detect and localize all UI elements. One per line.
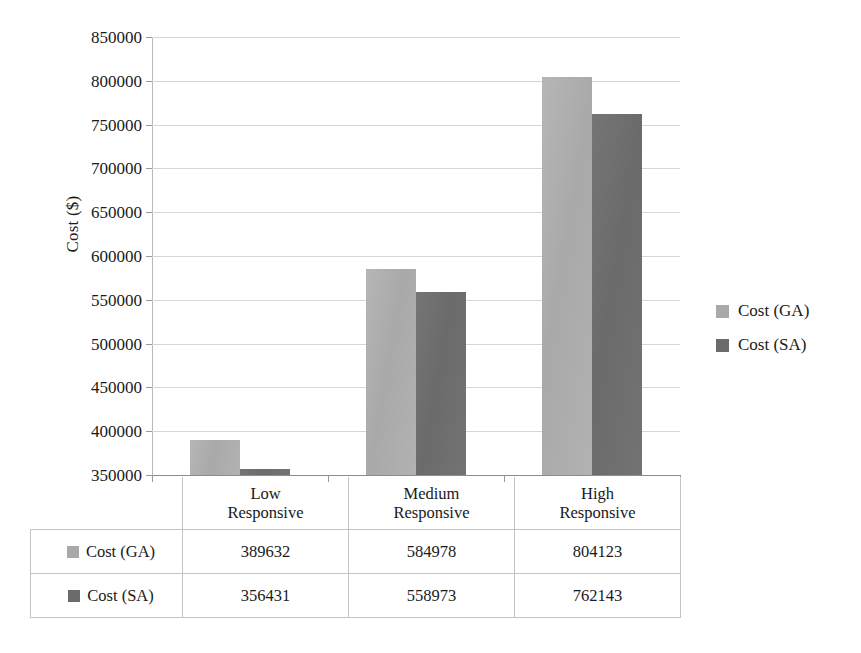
y-axis-tick (146, 212, 152, 213)
y-axis-tick-label: 600000 (42, 248, 142, 265)
table-column-header-line: Low (183, 484, 348, 503)
table-corner-cell (31, 477, 183, 530)
y-axis-tick-label: 850000 (42, 29, 142, 46)
y-axis-tick (146, 300, 152, 301)
bar-ga-1 (366, 269, 416, 475)
table-column-header-line: Responsive (349, 503, 514, 522)
bar-chart-figure: Cost ($) 8500008000007500007000006500006… (0, 0, 861, 653)
table-row: Cost (SA)356431558973762143 (31, 574, 681, 618)
gridline (152, 81, 680, 82)
table-column-header: MediumResponsive (349, 477, 515, 530)
table-column-header: HighResponsive (515, 477, 681, 530)
plot-area (152, 37, 680, 475)
y-axis-tick-label: 500000 (42, 335, 142, 352)
legend-entry: Cost (SA) (716, 328, 809, 362)
legend-label: Cost (GA) (738, 301, 809, 321)
legend-label: Cost (SA) (738, 335, 806, 355)
gridline (152, 475, 680, 476)
table-value-cell: 389632 (183, 530, 349, 574)
legend-color-swatch-icon (716, 305, 729, 318)
table-column-header-line: High (515, 484, 680, 503)
y-axis-tick (146, 37, 152, 38)
table-header-row: LowResponsiveMediumResponsiveHighRespons… (31, 477, 681, 530)
table-series-label-cell: Cost (SA) (31, 574, 183, 618)
series-color-swatch-icon (68, 590, 80, 602)
y-axis-tick (146, 125, 152, 126)
data-table: LowResponsiveMediumResponsiveHighRespons… (30, 477, 681, 618)
bar-ga-2 (542, 77, 592, 475)
legend-entry: Cost (GA) (716, 294, 809, 328)
y-axis-tick-label: 700000 (42, 160, 142, 177)
table-value-cell: 584978 (349, 530, 515, 574)
y-axis-tick-label: 450000 (42, 379, 142, 396)
table-column-header-line: Responsive (183, 503, 348, 522)
bar-ga-0 (190, 440, 240, 475)
table-column-header-line: Medium (349, 484, 514, 503)
y-axis-tick-label: 650000 (42, 204, 142, 221)
y-axis-tick (146, 431, 152, 432)
table-value-cell: 762143 (515, 574, 681, 618)
y-axis-tick-labels: 8500008000007500007000006500006000005500… (42, 37, 142, 475)
y-axis-tick-label: 800000 (42, 72, 142, 89)
table-column-header: LowResponsive (183, 477, 349, 530)
table-column-header-line: Responsive (515, 503, 680, 522)
bar-sa-0 (240, 469, 290, 475)
y-axis-tick-label: 400000 (42, 423, 142, 440)
table-series-label: Cost (SA) (87, 586, 153, 605)
table-series-label: Cost (GA) (86, 542, 155, 561)
table-row: Cost (GA)389632584978804123 (31, 530, 681, 574)
series-color-swatch-icon (67, 546, 79, 558)
y-axis-tick-label: 550000 (42, 291, 142, 308)
y-axis-tick-label: 750000 (42, 116, 142, 133)
table-value-cell: 356431 (183, 574, 349, 618)
y-axis-tick (146, 387, 152, 388)
y-axis-tick (146, 344, 152, 345)
table-series-label-cell: Cost (GA) (31, 530, 183, 574)
gridline (152, 37, 680, 38)
table-value-cell: 558973 (349, 574, 515, 618)
chart-legend: Cost (GA)Cost (SA) (716, 294, 809, 362)
y-axis-tick (146, 256, 152, 257)
table-value-cell: 804123 (515, 530, 681, 574)
y-axis-tick (146, 81, 152, 82)
bar-sa-2 (592, 114, 642, 475)
bar-sa-1 (416, 292, 466, 475)
y-axis-tick (146, 168, 152, 169)
legend-color-swatch-icon (716, 339, 729, 352)
